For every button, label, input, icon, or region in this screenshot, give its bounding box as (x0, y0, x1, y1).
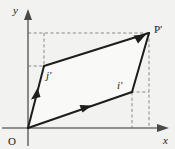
point-label-j-prime: j′ (44, 69, 52, 81)
x-axis-label: x (162, 134, 168, 146)
origin-label: O (8, 135, 16, 147)
figure-canvas: y x O j′ i′ P′ (0, 0, 175, 149)
point-label-i-prime: i′ (117, 79, 123, 91)
y-axis-label: y (12, 4, 18, 16)
y-axis-arrowhead (24, 9, 32, 20)
vector-parallelogram-figure: y x O j′ i′ P′ (0, 0, 175, 149)
arrowhead-origin-to-i-prime (80, 105, 93, 113)
point-label-p-prime: P′ (154, 23, 163, 35)
x-axis-arrowhead (157, 124, 169, 132)
